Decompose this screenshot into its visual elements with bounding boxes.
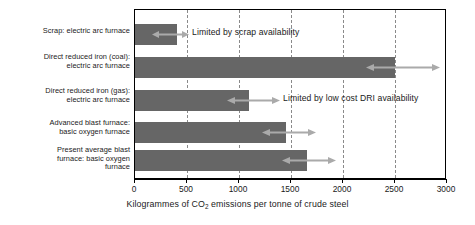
category-label-present-bf: Present average blast furnace: basic oxy… <box>10 146 130 172</box>
bar-dri-gas <box>135 90 249 111</box>
x-tick-1000 <box>238 179 239 183</box>
annotation-scrap-availability: Limited by scrap availability <box>192 27 300 37</box>
x-tick-label-1000: 1000 <box>229 184 248 194</box>
bar-dri-coal <box>135 57 395 78</box>
x-axis-title-suffix: emissions per tonne of crude steel <box>209 199 349 209</box>
x-tick-label-500: 500 <box>179 184 193 194</box>
x-tick-label-0: 0 <box>132 184 137 194</box>
co2-emissions-bar-chart: Scrap: electric arc furnace Direct reduc… <box>0 0 475 225</box>
x-tick-3000 <box>446 179 447 183</box>
category-label-advanced-bf: Advanced blast furnace: basic oxygen fur… <box>10 119 130 136</box>
category-label-scrap: Scrap: electric arc furnace <box>10 27 130 36</box>
x-tick-label-2000: 2000 <box>333 184 352 194</box>
x-axis-title-subscript: 2 <box>205 203 209 210</box>
x-tick-500 <box>186 179 187 183</box>
x-tick-label-2500: 2500 <box>385 184 404 194</box>
x-tick-1500 <box>290 179 291 183</box>
x-tick-2000 <box>342 179 343 183</box>
annotation-dri-availability: Limited by low cost DRI availability <box>283 93 418 103</box>
category-label-dri-gas: Direct reduced iron (gas): electric arc … <box>10 87 130 104</box>
x-axis-title-prefix: Kilogrammes of CO <box>126 199 204 209</box>
category-label-dri-coal: Direct reduced iron (coal): electric arc… <box>10 53 130 70</box>
x-tick-label-1500: 1500 <box>281 184 300 194</box>
x-tick-0 <box>134 179 135 183</box>
bar-present-bf <box>135 150 307 171</box>
bar-advanced-bf <box>135 122 286 143</box>
x-tick-2500 <box>394 179 395 183</box>
bar-scrap <box>135 24 177 45</box>
x-tick-label-3000: 3000 <box>437 184 456 194</box>
x-axis-title: Kilogrammes of CO2 emissions per tonne o… <box>0 199 475 209</box>
